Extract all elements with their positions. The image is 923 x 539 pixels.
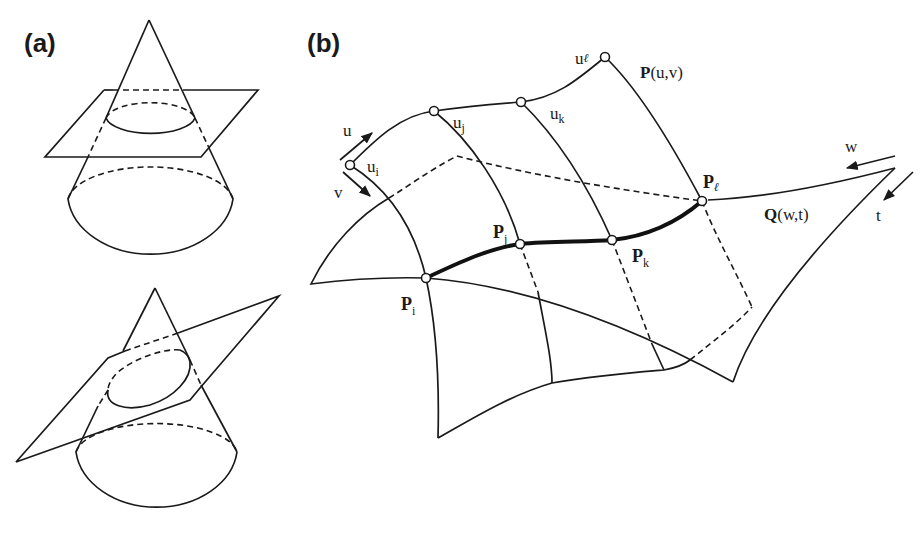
panel-b-label: (b) bbox=[307, 28, 340, 58]
cone-side-right-bottom bbox=[209, 148, 233, 199]
w-direction-arrow-icon bbox=[847, 156, 895, 168]
figure-canvas: (a) bbox=[0, 0, 923, 539]
base-ellipse-front bbox=[68, 199, 233, 254]
plane-outline bbox=[16, 296, 279, 462]
surface-p-curve-uj-hidden bbox=[520, 244, 538, 292]
surface-p-curve-ui bbox=[350, 165, 438, 438]
surface-p-bottom-edge bbox=[438, 360, 690, 438]
point-uj bbox=[430, 107, 439, 116]
cone-side-left-hidden bbox=[98, 390, 108, 406]
surface-p-curve-ul-hidden bbox=[702, 201, 752, 307]
intersection-curve bbox=[426, 201, 702, 278]
cone-side-left-bottom bbox=[76, 406, 98, 452]
cone-side-left-top bbox=[123, 288, 155, 351]
label-pl: Pℓ bbox=[703, 172, 719, 194]
surface-q-label: Q(w,t) bbox=[764, 205, 809, 224]
surface-p-curve-uk bbox=[521, 102, 612, 240]
surface-q bbox=[311, 168, 895, 382]
panel-a-label: (a) bbox=[24, 28, 56, 58]
label-pi: Pi bbox=[401, 294, 416, 318]
section-ellipse-front bbox=[108, 350, 190, 408]
surface-p-curve-uj bbox=[434, 111, 520, 244]
section-ellipse-back bbox=[108, 350, 180, 390]
label-uj: uj bbox=[453, 113, 465, 135]
t-direction-arrow-icon bbox=[884, 172, 913, 200]
surface-p-curve-uk-lower bbox=[652, 344, 664, 370]
t-arrow-label: t bbox=[876, 206, 881, 225]
section-ellipse-front bbox=[106, 118, 195, 133]
point-ul bbox=[601, 53, 610, 62]
point-uk bbox=[517, 98, 526, 107]
surface-q-left-wing bbox=[311, 198, 426, 284]
cone-side-right-top bbox=[155, 288, 190, 360]
w-arrow-label: w bbox=[845, 137, 858, 156]
point-pk bbox=[608, 236, 617, 245]
point-pj bbox=[516, 240, 525, 249]
cone-horizontal-plane bbox=[45, 20, 258, 254]
base-ellipse-back bbox=[76, 424, 237, 452]
surface-p-label: P(u,v) bbox=[640, 63, 683, 82]
point-ui bbox=[346, 161, 355, 170]
label-pj: Pj bbox=[493, 222, 507, 246]
cone-inclined-plane bbox=[16, 288, 279, 507]
surface-p-bottom-edge-hidden bbox=[690, 307, 752, 360]
v-arrow-label: v bbox=[334, 183, 343, 202]
u-arrow-label: u bbox=[343, 121, 352, 140]
cone-side-left-hidden bbox=[88, 118, 106, 157]
base-ellipse-front bbox=[76, 452, 237, 507]
section-ellipse-back bbox=[106, 103, 195, 118]
point-pi bbox=[422, 274, 431, 283]
surface-q-right-edge bbox=[733, 168, 895, 382]
cone-side-left-bottom bbox=[68, 157, 88, 199]
surface-p-hidden-edge-left bbox=[389, 156, 457, 198]
point-pl bbox=[698, 197, 707, 206]
label-ui: ui bbox=[367, 157, 380, 179]
label-ul: uℓ bbox=[575, 49, 589, 68]
surface-p-curve-uj-lower bbox=[538, 292, 552, 383]
cone-side-right-bottom bbox=[201, 385, 237, 452]
base-ellipse-back bbox=[68, 167, 233, 199]
label-uk: uk bbox=[550, 104, 565, 126]
plane-outline bbox=[45, 90, 258, 157]
cone-side-right-hidden bbox=[195, 118, 209, 148]
surface-p-top-edge bbox=[350, 57, 605, 165]
cone-side-right-hidden bbox=[190, 360, 201, 385]
surface-q-front-edge bbox=[426, 278, 733, 382]
plane-edge-hidden bbox=[125, 333, 178, 351]
panel-b: (b) bbox=[307, 28, 913, 438]
label-pk: Pk bbox=[632, 246, 649, 270]
panel-a: (a) bbox=[16, 20, 279, 507]
